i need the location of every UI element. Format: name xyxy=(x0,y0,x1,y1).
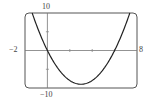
y-max-label: 10 xyxy=(42,3,50,11)
y-min-label: −10 xyxy=(40,91,53,99)
x-min-label: −2 xyxy=(9,46,18,54)
graph-plot xyxy=(0,0,145,109)
x-max-label: 8 xyxy=(139,46,143,54)
parabola-curve xyxy=(32,13,130,84)
